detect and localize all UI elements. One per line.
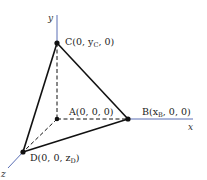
tetrahedron-diagram: y x z C(0, yC, 0) A(0, 0, 0) B(xB, 0, 0)… xyxy=(0,0,207,180)
point-c-label: C(0, yC, 0) xyxy=(65,36,114,49)
edge-d-b xyxy=(23,119,128,152)
point-b xyxy=(125,116,130,121)
point-a-label: A(0, 0, 0) xyxy=(68,106,114,117)
point-d-label: D(0, 0, zD) xyxy=(30,152,79,165)
edge-c-d xyxy=(23,43,57,152)
point-b-label: B(xB, 0, 0) xyxy=(142,106,191,119)
y-axis-label: y xyxy=(47,13,54,23)
point-c xyxy=(54,40,59,45)
point-d xyxy=(20,149,25,154)
z-axis xyxy=(8,152,23,168)
x-axis-label: x xyxy=(188,122,193,132)
point-a xyxy=(55,117,60,122)
z-axis-label: z xyxy=(0,169,6,179)
